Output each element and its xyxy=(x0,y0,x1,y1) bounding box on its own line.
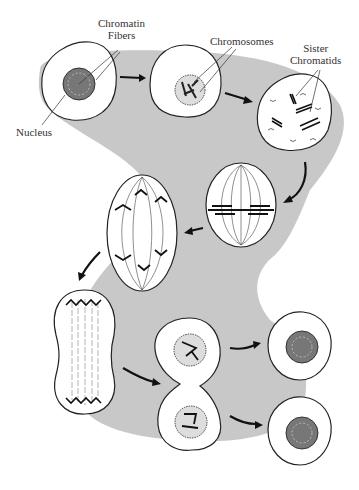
arrow-5 xyxy=(82,252,100,275)
label-chromatin-fibers: Chromatin Fibers xyxy=(98,17,145,41)
label-sister-chromatids: Sister Chromatids xyxy=(290,42,341,66)
stage-daughter-cell-2 xyxy=(268,397,331,465)
stage-anaphase xyxy=(107,175,177,291)
stage-telophase xyxy=(54,290,115,414)
stage-metaphase xyxy=(206,163,276,247)
stage-daughter-cell-1 xyxy=(268,312,331,380)
label-chromosomes: Chromosomes xyxy=(210,35,274,47)
mitosis-diagram xyxy=(0,0,359,490)
arrow-1 xyxy=(120,77,142,78)
label-nucleus: Nucleus xyxy=(16,126,52,138)
